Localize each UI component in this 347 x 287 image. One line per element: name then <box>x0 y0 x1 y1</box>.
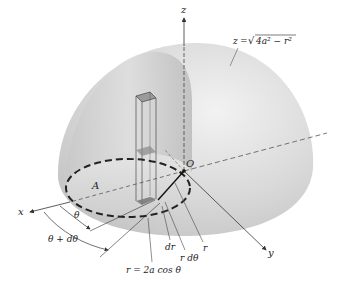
y-axis-label: y <box>267 247 274 258</box>
svg-text:z: z <box>232 36 238 46</box>
region-a-label: A <box>91 180 99 191</box>
z-axis-label: z <box>180 4 187 15</box>
theta-plus-dtheta-label: θ + dθ <box>48 234 78 244</box>
x-axis <box>30 202 70 212</box>
svg-text:√: √ <box>248 35 255 46</box>
curve-equation-label: r = 2a cos θ <box>126 265 181 275</box>
cylindrical-volume-diagram: z x y O z = √ 4a² − r² A θ θ + dθ dr r d… <box>0 0 347 287</box>
dr-label: dr <box>165 242 176 252</box>
svg-text:=: = <box>240 36 248 46</box>
theta-label: θ <box>74 210 80 220</box>
r-label: r <box>203 243 208 253</box>
x-axis-label: x <box>18 206 24 217</box>
origin-label: O <box>186 158 194 169</box>
svg-text:4a² − r²: 4a² − r² <box>255 36 292 46</box>
surface-equation: z = √ 4a² − r² <box>232 35 296 46</box>
r-dtheta-label: r dθ <box>180 253 199 263</box>
